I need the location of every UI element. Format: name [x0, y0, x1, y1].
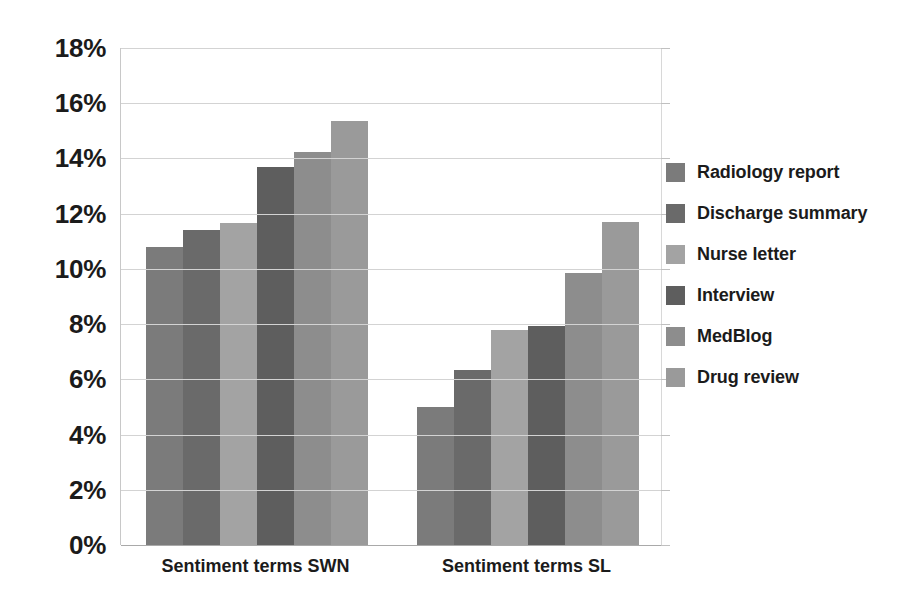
bar: [331, 121, 369, 545]
bar: [454, 370, 492, 545]
gridline: [121, 269, 661, 270]
bar: [602, 222, 640, 545]
gridline: [121, 379, 661, 380]
gridline: [121, 435, 661, 436]
x-axis-category-label: Sentiment terms SWN: [161, 556, 349, 577]
bar-chart: 0%2%4%6%8%10%12%14%16%18% Sentiment term…: [0, 0, 907, 614]
legend-swatch-icon: [666, 163, 685, 182]
y-axis-tick-mark: [661, 103, 670, 104]
legend-swatch-icon: [666, 368, 685, 387]
legend-swatch-icon: [666, 245, 685, 264]
legend-item[interactable]: Drug review: [666, 357, 906, 398]
bar: [417, 407, 455, 545]
legend-item[interactable]: Interview: [666, 275, 906, 316]
y-axis-tick-label: 2%: [69, 477, 106, 503]
x-axis-category-label: Sentiment terms SL: [442, 556, 611, 577]
bars-layer: [121, 48, 661, 545]
bar: [220, 223, 258, 545]
y-axis: 0%2%4%6%8%10%12%14%16%18%: [0, 0, 122, 614]
legend-label: Radiology report: [697, 162, 839, 183]
y-axis-tick-mark: [661, 490, 670, 491]
gridline: [121, 545, 661, 546]
y-axis-tick-label: 0%: [69, 532, 106, 558]
legend-swatch-icon: [666, 286, 685, 305]
legend-label: MedBlog: [697, 326, 772, 347]
gridline: [121, 490, 661, 491]
bar: [565, 273, 603, 545]
legend-label: Drug review: [697, 367, 799, 388]
bar: [294, 152, 332, 545]
y-axis-tick-mark: [661, 435, 670, 436]
y-axis-tick-label: 8%: [69, 311, 106, 337]
gridline: [121, 103, 661, 104]
y-axis-tick-mark: [661, 48, 670, 49]
y-axis-tick-mark: [661, 545, 670, 546]
bar: [183, 230, 221, 545]
bar: [491, 330, 529, 545]
legend-item[interactable]: MedBlog: [666, 316, 906, 357]
gridline: [121, 214, 661, 215]
plot-area: [120, 48, 662, 545]
y-axis-tick-label: 14%: [55, 145, 106, 171]
y-axis-tick-label: 10%: [55, 256, 106, 282]
legend-item[interactable]: Nurse letter: [666, 234, 906, 275]
y-axis-tick-label: 12%: [55, 201, 106, 227]
legend-swatch-icon: [666, 204, 685, 223]
y-axis-tick-label: 18%: [55, 35, 106, 61]
chart-legend: Radiology reportDischarge summaryNurse l…: [666, 152, 906, 398]
gridline: [121, 158, 661, 159]
bar: [146, 247, 184, 545]
legend-item[interactable]: Discharge summary: [666, 193, 906, 234]
gridline: [121, 324, 661, 325]
legend-label: Discharge summary: [697, 203, 867, 224]
legend-label: Interview: [697, 285, 774, 306]
legend-swatch-icon: [666, 327, 685, 346]
legend-item[interactable]: Radiology report: [666, 152, 906, 193]
bar: [257, 167, 295, 545]
gridline: [121, 48, 661, 49]
y-axis-tick-label: 4%: [69, 422, 106, 448]
y-axis-tick-label: 6%: [69, 366, 106, 392]
legend-label: Nurse letter: [697, 244, 796, 265]
y-axis-tick-label: 16%: [55, 90, 106, 116]
